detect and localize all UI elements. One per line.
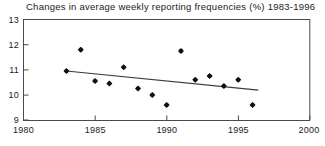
x-tick-label-2000: 2000 [299, 125, 320, 135]
data-point-core [179, 49, 183, 53]
data-point-core [250, 103, 254, 107]
x-tick-label-1990: 1990 [156, 125, 177, 135]
x-axis: 1980 1985 1990 1995 2000 [13, 116, 319, 136]
data-point-core [208, 74, 212, 78]
data-point-core [93, 79, 97, 83]
chart-container: Changes in average weekly reporting freq… [0, 0, 325, 146]
data-point-core [122, 65, 126, 69]
y-tick-label-11: 11 [9, 65, 19, 75]
data-point-core [150, 93, 154, 97]
chart-plot: 13 12 11 10 9 1980 1985 1990 1995 2000 [0, 0, 325, 146]
data-point-series [63, 47, 255, 108]
data-point-core [136, 86, 140, 90]
y-tick-label-12: 12 [9, 40, 19, 50]
data-point-core [193, 78, 197, 82]
y-tick-label-10: 10 [9, 90, 19, 100]
x-tick-label-1980: 1980 [13, 125, 34, 135]
data-point-core [107, 81, 111, 85]
x-tick-label-1995: 1995 [228, 125, 249, 135]
x-tick-label-1985: 1985 [85, 125, 106, 135]
data-point-core [222, 84, 226, 88]
data-point-core [165, 103, 169, 107]
y-tick-label-9: 9 [14, 115, 19, 125]
y-axis: 13 12 11 10 9 [9, 15, 29, 126]
data-point-core [236, 78, 240, 82]
data-point-core [64, 69, 68, 73]
data-point-core [79, 48, 83, 52]
y-tick-label-13: 13 [9, 15, 19, 25]
